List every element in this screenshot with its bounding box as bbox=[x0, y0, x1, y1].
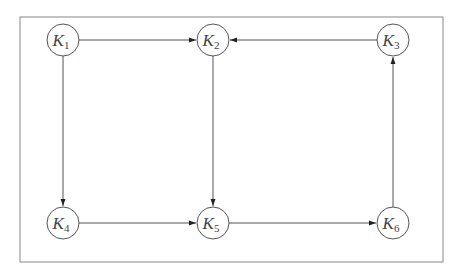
node-subscript: 5 bbox=[214, 222, 220, 234]
node-k2: K2 bbox=[197, 24, 229, 56]
graph-diagram: K1K2K3K4K5K6 bbox=[0, 0, 465, 276]
node-subscript: 3 bbox=[394, 39, 400, 51]
node-k6: K6 bbox=[377, 207, 409, 239]
node-subscript: 6 bbox=[394, 222, 400, 234]
node-subscript: 2 bbox=[214, 39, 220, 51]
node-k5: K5 bbox=[197, 207, 229, 239]
node-k4: K4 bbox=[47, 207, 79, 239]
node-k1: K1 bbox=[47, 24, 79, 56]
node-subscript: 4 bbox=[64, 222, 70, 234]
node-k3: K3 bbox=[377, 24, 409, 56]
node-subscript: 1 bbox=[64, 39, 70, 51]
